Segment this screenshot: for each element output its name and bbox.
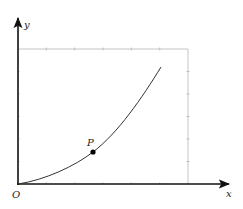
coordinate-diagram: y x O P bbox=[0, 0, 243, 209]
point-p-label: P bbox=[86, 137, 94, 148]
origin-label: O bbox=[12, 189, 20, 200]
curve bbox=[18, 67, 161, 184]
axis-ticks bbox=[18, 72, 160, 185]
bounding-box bbox=[18, 48, 190, 185]
point-p bbox=[90, 149, 95, 154]
x-axis-label: x bbox=[226, 188, 232, 199]
y-axis-label: y bbox=[23, 19, 30, 30]
